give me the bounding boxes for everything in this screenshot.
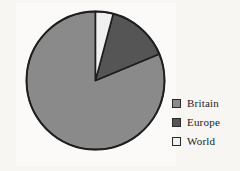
legend-item-britain[interactable]: Britain	[172, 97, 238, 109]
square-swatch-icon	[172, 137, 181, 146]
square-swatch-icon	[172, 118, 181, 127]
legend-item-label: Europe	[187, 117, 220, 128]
pie-slices-group	[27, 12, 165, 150]
legend-item-world[interactable]: World	[172, 135, 238, 147]
pie-chart-figure: Britain Europe World	[0, 0, 240, 171]
legend-item-label: World	[187, 136, 215, 147]
chart-legend: Britain Europe World	[172, 97, 238, 147]
legend-item-label: Britain	[187, 98, 219, 109]
legend-item-europe[interactable]: Europe	[172, 116, 238, 128]
square-swatch-icon	[172, 99, 181, 108]
